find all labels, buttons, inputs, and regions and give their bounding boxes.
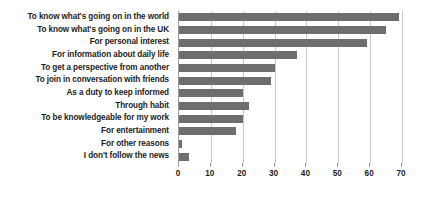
bar-row [179,24,402,37]
plot-area [178,11,402,163]
bar [179,64,275,72]
value-axis: 010203040506070 [178,163,401,187]
category-label: Through habit [0,100,174,113]
bar [179,115,243,123]
bar-row [179,36,402,49]
category-label: To join in conversation with friends [0,74,174,87]
tick-label: 0 [176,169,181,178]
bar-row [179,62,402,75]
bar-row [179,112,402,125]
bar [179,51,297,59]
tick-label: 40 [301,169,310,178]
category-label: To know what's going on in the UK [0,24,174,37]
tick-label: 20 [237,169,246,178]
tick-label: 10 [205,169,214,178]
bar [179,89,243,97]
bar [179,153,189,161]
category-label: For information about daily life [0,49,174,62]
tick-label: 30 [269,169,278,178]
tick-mark [242,163,243,167]
category-label: I don't follow the news [0,150,174,163]
bar [179,127,236,135]
bar [179,140,182,148]
bar-row [179,74,402,87]
tick-label: 70 [396,169,405,178]
bars-container [179,11,402,163]
bar [179,77,271,85]
category-label: To know what's going on in the world [0,11,174,24]
category-label: For entertainment [0,125,174,138]
bar-row [179,125,402,138]
tick-mark [210,163,211,167]
bar-row [179,49,402,62]
category-label: To get a perspective from another [0,62,174,75]
bar-row [179,100,402,113]
bar [179,26,386,34]
bar-row [179,138,402,151]
category-label: To be knowledgeable for my work [0,112,174,125]
category-label: For other reasons [0,138,174,151]
bar [179,102,249,110]
bar [179,13,399,21]
tick-mark [274,163,275,167]
tick-mark [401,163,402,167]
gridline [402,11,403,163]
tick-label: 60 [365,169,374,178]
tick-mark [305,163,306,167]
tick-mark [369,163,370,167]
bar-row [179,150,402,163]
category-label: For personal interest [0,36,174,49]
bar-row [179,11,402,24]
category-axis-labels: To know what's going on in the worldTo k… [0,11,174,163]
bar-chart: To know what's going on in the worldTo k… [0,0,426,197]
category-label: As a duty to keep informed [0,87,174,100]
bar-row [179,87,402,100]
tick-mark [337,163,338,167]
tick-label: 50 [333,169,342,178]
bar [179,39,367,47]
tick-mark [178,163,179,167]
